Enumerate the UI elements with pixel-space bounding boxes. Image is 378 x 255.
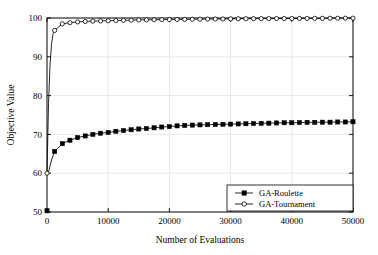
x-tick-label: 50000 bbox=[342, 216, 365, 226]
y-tick-label: 80 bbox=[33, 91, 43, 101]
data-series-layer bbox=[45, 16, 355, 213]
gridlines bbox=[47, 18, 353, 212]
axis-ticks bbox=[47, 18, 353, 212]
x-tick-label: 10000 bbox=[97, 216, 120, 226]
x-tick-label: 40000 bbox=[281, 216, 304, 226]
objective-value-line-chart: 01000020000300004000050000 5060708090100… bbox=[0, 0, 378, 255]
y-tick-label: 90 bbox=[33, 52, 43, 62]
x-tick-labels: 01000020000300004000050000 bbox=[45, 216, 365, 226]
x-tick-label: 20000 bbox=[158, 216, 181, 226]
x-axis-title: Number of Evaluations bbox=[156, 235, 245, 245]
x-tick-label: 30000 bbox=[219, 216, 242, 226]
chart-legend: GA-RouletteGA-Tournament bbox=[227, 185, 353, 211]
y-axis-title: Objective Value bbox=[6, 85, 16, 146]
legend-label: GA-Tournament bbox=[259, 199, 316, 209]
legend-label: GA-Roulette bbox=[259, 188, 303, 198]
y-tick-label: 60 bbox=[33, 168, 43, 178]
chart-figure: 01000020000300004000050000 5060708090100… bbox=[0, 0, 378, 255]
y-tick-label: 70 bbox=[33, 130, 43, 140]
axes-frame bbox=[47, 18, 353, 212]
y-tick-label: 50 bbox=[33, 207, 43, 217]
x-tick-label: 0 bbox=[45, 216, 50, 226]
y-tick-label: 100 bbox=[29, 13, 43, 23]
y-tick-labels: 5060708090100 bbox=[29, 13, 43, 217]
